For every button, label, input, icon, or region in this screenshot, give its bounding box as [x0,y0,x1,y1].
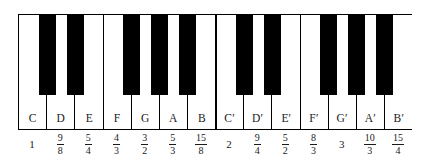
white-key-label: D [47,112,74,124]
ratio-row: 1985443325315829452833103154 [18,133,412,165]
white-key-label: A [160,112,187,124]
ratio-value: 1 [29,133,35,150]
ratio-numerator: 5 [282,133,289,145]
ratio-numerator: 15 [195,133,207,145]
ratio-cell-C: 1 [18,133,46,165]
ratio-cell-E-prime: 52 [271,133,299,165]
ratio-fraction: 154 [392,133,404,156]
black-key-A-sharp[interactable] [179,15,196,95]
black-key-G-sharp-prime[interactable] [348,15,365,95]
ratio-cell-B: 158 [187,133,215,165]
white-key-label: G′ [329,112,356,124]
white-key-label: F [103,112,130,124]
ratio-fraction: 54 [85,133,92,156]
ratio-numerator: 15 [392,133,404,145]
ratio-numerator: 5 [169,133,176,145]
black-key-A-sharp-prime[interactable] [376,15,393,95]
white-key-label: B′ [385,112,413,124]
white-key-label: C [19,112,46,124]
white-key-label: C′ [216,112,243,124]
ratio-cell-D-prime: 94 [243,133,271,165]
ratio-numerator: 5 [85,133,92,145]
ratio-cell-C-prime: 2 [215,133,243,165]
ratio-cell-B-prime: 154 [384,133,412,165]
black-key-D-sharp-prime[interactable] [264,15,281,95]
ratio-numerator: 8 [310,133,317,145]
ratio-numerator: 4 [113,133,120,145]
ratio-numerator: 9 [57,133,64,145]
ratio-cell-A: 53 [159,133,187,165]
white-key-label: F′ [300,112,327,124]
ratio-denominator: 4 [254,145,261,156]
ratio-fraction: 43 [113,133,120,156]
black-key-D-sharp[interactable] [67,15,84,95]
ratio-cell-A-prime: 103 [356,133,384,165]
ratio-numerator: 3 [141,133,148,145]
white-key-label: G [132,112,159,124]
ratio-fraction: 98 [57,133,64,156]
ratio-numerator: 10 [364,133,376,145]
ratio-numerator: 9 [254,133,261,145]
ratio-cell-F: 43 [102,133,130,165]
ratio-cell-E: 54 [74,133,102,165]
ratio-denominator: 2 [282,145,289,156]
ratio-denominator: 8 [57,145,64,156]
ratio-value: 2 [226,133,232,150]
black-key-F-sharp-prime[interactable] [320,15,337,95]
ratio-cell-G-prime: 3 [328,133,356,165]
white-key-label: E [75,112,103,124]
ratio-fraction: 103 [364,133,376,156]
black-key-C-sharp-prime[interactable] [236,15,253,95]
octave-group-divider [215,15,217,129]
ratio-fraction: 52 [282,133,289,156]
white-key-label: D′ [244,112,271,124]
ratio-fraction: 158 [195,133,207,156]
piano-keyboard-figure: CDEFGABC′D′E′F′G′A′B′ 198544332531582945… [0,0,425,168]
ratio-denominator: 3 [364,145,376,156]
ratio-fraction: 32 [141,133,148,156]
ratio-denominator: 8 [195,145,207,156]
piano-keyboard: CDEFGABC′D′E′F′G′A′B′ [18,14,412,130]
octave-group-divider [103,15,105,129]
ratio-fraction: 53 [169,133,176,156]
ratio-fraction: 83 [310,133,317,156]
ratio-denominator: 4 [85,145,92,156]
ratio-fraction: 94 [254,133,261,156]
ratio-denominator: 4 [392,145,404,156]
white-key-label: B [188,112,216,124]
black-key-F-sharp[interactable] [123,15,140,95]
ratio-denominator: 3 [310,145,317,156]
ratio-cell-F-prime: 83 [299,133,327,165]
black-key-G-sharp[interactable] [151,15,168,95]
octave-group-divider [300,15,302,129]
white-key-label: E′ [272,112,300,124]
ratio-denominator: 3 [169,145,176,156]
ratio-denominator: 3 [113,145,120,156]
ratio-cell-D: 98 [46,133,74,165]
black-key-C-sharp[interactable] [39,15,56,95]
white-key-label: A′ [357,112,384,124]
ratio-denominator: 2 [141,145,148,156]
ratio-value: 3 [339,133,345,150]
ratio-cell-G: 32 [131,133,159,165]
